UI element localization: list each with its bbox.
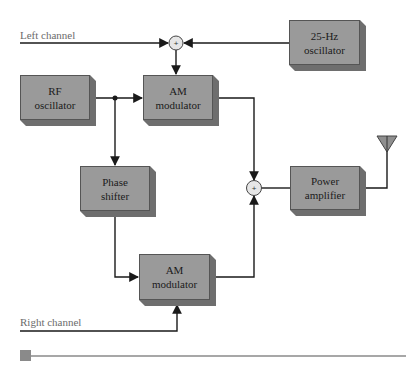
svg-text:+: + (252, 184, 257, 193)
block-phase-shifter: Phase shifter (80, 166, 156, 217)
block-label-line1: Phase (102, 175, 128, 189)
block-label-line2: amplifier (305, 188, 345, 202)
block-power-amplifier: Power amplifier (290, 166, 366, 216)
block-label-line1: AM (166, 263, 184, 277)
block-label-line2: shifter (101, 189, 129, 203)
right-channel-label: Right channel (20, 316, 81, 328)
block-am-modulator-bottom: AM modulator (139, 254, 216, 306)
block-am-modulator-top: AM modulator (143, 75, 219, 126)
block-label-line2: modulator (155, 98, 200, 112)
summing-junction-top: + (169, 36, 183, 50)
summing-junction-bottom: + (247, 181, 262, 196)
block-label-line2: oscillator (35, 98, 76, 112)
block-25hz-oscillator: 25-Hz oscillator (289, 20, 366, 71)
bottom-bar-marker (20, 350, 31, 361)
block-rf-oscillator: RF oscillator (20, 75, 96, 126)
block-label-line1: AM (169, 84, 187, 98)
block-label-line2: modulator (152, 277, 197, 291)
block-label-line1: Power (311, 174, 339, 188)
block-label-line1: RF (48, 84, 61, 98)
block-label-line2: oscillator (304, 43, 345, 57)
block-label-line1: 25-Hz (311, 29, 339, 43)
svg-text:+: + (174, 39, 179, 48)
junction-dot (113, 96, 118, 101)
left-channel-label: Left channel (20, 29, 75, 41)
